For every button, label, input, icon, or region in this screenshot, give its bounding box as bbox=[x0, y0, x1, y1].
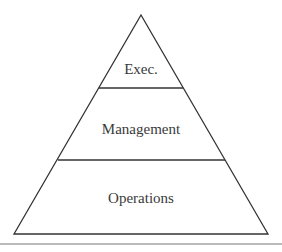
tier-label-exec: Exec. bbox=[124, 61, 158, 77]
tier-label-operations: Operations bbox=[108, 190, 174, 206]
pyramid-diagram: Exec. Management Operations bbox=[0, 0, 282, 252]
tier-label-management: Management bbox=[102, 121, 181, 137]
